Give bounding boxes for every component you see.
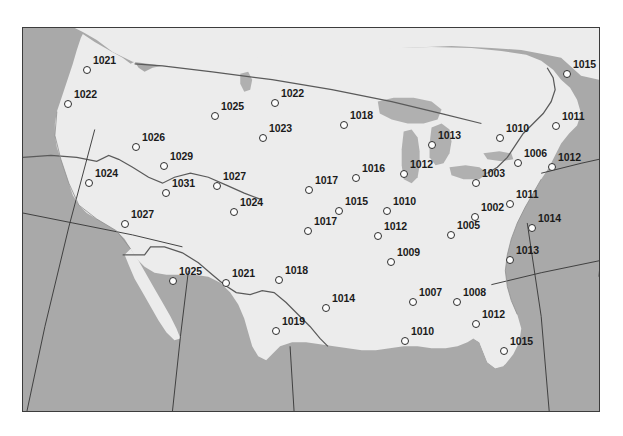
station-pressure-label: 1017 (315, 175, 338, 186)
map-frame: 1021102210261029102510221023102710241031… (22, 27, 600, 412)
station-pressure-label: 1022 (74, 89, 97, 100)
station-pressure-label: 1019 (282, 316, 305, 327)
station-pressure-label: 1016 (362, 163, 385, 174)
station-pressure-label: 1015 (573, 59, 596, 70)
station-pressure-label: 1010 (506, 123, 529, 134)
station-pressure-label: 1022 (281, 88, 304, 99)
station-pressure-label: 1010 (411, 326, 434, 337)
station-pressure-label: 1027 (131, 209, 154, 220)
map-graphic (23, 28, 599, 411)
station-pressure-label: 1005 (457, 220, 480, 231)
station-pressure-label: 1027 (223, 171, 246, 182)
station-pressure-label: 1013 (438, 130, 461, 141)
station-pressure-label: 1015 (345, 196, 368, 207)
station-pressure-label: 1011 (516, 189, 538, 200)
station-pressure-label: 1024 (240, 197, 263, 208)
station-pressure-label: 1018 (350, 110, 373, 121)
station-pressure-label: 1011 (562, 111, 584, 122)
station-pressure-label: 1002 (481, 202, 504, 213)
station-pressure-label: 1029 (170, 151, 193, 162)
station-pressure-label: 1018 (285, 265, 308, 276)
station-pressure-label: 1025 (221, 101, 244, 112)
station-pressure-label: 1023 (269, 123, 292, 134)
station-pressure-label: 1014 (332, 293, 355, 304)
station-pressure-label: 1008 (463, 287, 486, 298)
station-pressure-label: 1007 (419, 287, 442, 298)
station-pressure-label: 1010 (393, 196, 416, 207)
station-pressure-label: 1012 (558, 152, 581, 163)
station-pressure-label: 1003 (482, 168, 505, 179)
station-pressure-label: 1012 (482, 309, 505, 320)
station-pressure-label: 1021 (93, 55, 116, 66)
station-pressure-label: 1012 (384, 221, 407, 232)
station-pressure-label: 1015 (510, 336, 533, 347)
station-pressure-label: 1031 (172, 178, 195, 189)
station-pressure-label: 1014 (538, 213, 561, 224)
station-pressure-label: 1021 (232, 268, 255, 279)
station-pressure-label: 1009 (397, 247, 420, 258)
station-pressure-label: 1026 (142, 132, 165, 143)
station-pressure-label: 1006 (524, 148, 547, 159)
station-pressure-label: 1017 (314, 216, 337, 227)
weather-station-map: 1021102210261029102510221023102710241031… (0, 0, 623, 436)
station-pressure-label: 1012 (410, 159, 433, 170)
station-pressure-label: 1013 (516, 245, 539, 256)
station-pressure-label: 1025 (179, 266, 202, 277)
station-pressure-label: 1024 (95, 168, 118, 179)
